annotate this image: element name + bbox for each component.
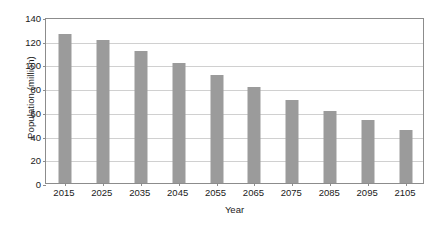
bar [58, 34, 71, 183]
y-axis-tick-mark [43, 138, 46, 139]
x-axis-tick-mark [368, 183, 369, 186]
bar [286, 100, 299, 183]
y-axis-tick-mark [43, 161, 46, 162]
y-axis-tick-label: 80 [11, 84, 41, 95]
y-axis-tick-mark [43, 66, 46, 67]
x-axis-tick-label: 2105 [383, 187, 427, 198]
y-axis-tick-label: 20 [11, 155, 41, 166]
y-axis-tick-label: 40 [11, 131, 41, 142]
x-axis-tick-mark [179, 183, 180, 186]
y-axis-tick-mark [43, 19, 46, 20]
y-axis-tick-mark [43, 185, 46, 186]
y-axis-tick-label: 100 [11, 60, 41, 71]
x-axis-tick-mark [330, 183, 331, 186]
x-axis-tick-mark [292, 183, 293, 186]
x-axis-tick-mark [217, 183, 218, 186]
y-axis-tick-mark [43, 43, 46, 44]
y-axis-tick-label: 60 [11, 107, 41, 118]
bar [172, 63, 185, 183]
bar [96, 40, 109, 183]
x-axis-title: Year [44, 204, 425, 215]
x-axis-tick-mark [103, 183, 104, 186]
y-axis-tick-label: 120 [11, 36, 41, 47]
x-axis-tick-mark [65, 183, 66, 186]
bar [134, 51, 147, 183]
x-axis-tick-mark [254, 183, 255, 186]
y-axis-tick-mark [43, 90, 46, 91]
bar [400, 130, 413, 183]
plot-area [45, 18, 424, 184]
bar [210, 75, 223, 183]
bar [248, 87, 261, 183]
y-axis-tick-label: 0 [11, 179, 41, 190]
bar-chart: Population (million) 020406080100120140 … [0, 0, 439, 227]
x-axis-tick-mark [406, 183, 407, 186]
bar [362, 120, 375, 183]
x-axis-tick-mark [141, 183, 142, 186]
y-axis-tick-mark [43, 114, 46, 115]
y-axis-tick-label: 140 [11, 13, 41, 24]
bar [324, 111, 337, 183]
